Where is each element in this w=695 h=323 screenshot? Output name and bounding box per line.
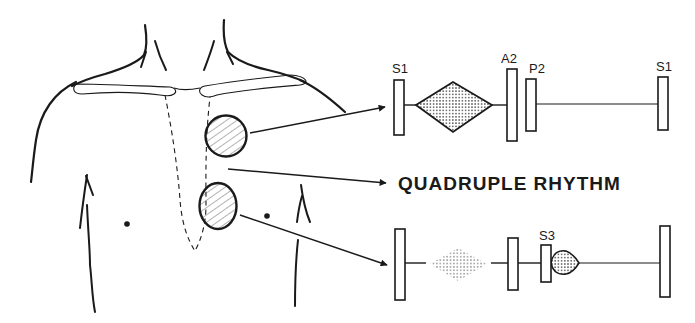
bottom-s3-bar [541, 245, 551, 282]
top-p2-bar [526, 79, 536, 131]
bottom-s1-end-bar [660, 226, 670, 297]
neck-left-line [72, 25, 146, 86]
label-p2: P2 [529, 61, 545, 76]
neck-inner-right [204, 41, 214, 70]
left-shoulder [31, 82, 76, 182]
bottom-s1-start-bar [395, 229, 405, 300]
bottom-s2-bar [508, 238, 518, 290]
label-s1-start: S1 [392, 61, 408, 76]
right-nipple [264, 213, 270, 219]
arrow-lower-to-bottom-trace [240, 215, 387, 265]
diagram-canvas: S1 A2 P2 S1 QUADRUPLE RHYTHM S3 [0, 0, 695, 323]
label-s1-end: S1 [656, 59, 672, 74]
right-shoulder [300, 80, 345, 112]
sternum-outline [165, 95, 210, 251]
clavicles [74, 75, 306, 97]
neck-right-line [224, 20, 305, 82]
bottom-phonocardiogram: S3 [395, 226, 670, 300]
auscultation-site-upper[interactable] [206, 116, 247, 157]
top-systolic-murmur-diamond [416, 82, 492, 132]
right-flank-upper [301, 185, 310, 222]
top-s1-start-bar [394, 80, 404, 135]
label-s3: S3 [539, 228, 555, 243]
left-flank [87, 205, 95, 312]
arrow-middle-to-title [228, 169, 386, 183]
bottom-faint-murmur-diamond [430, 248, 487, 281]
neck-inner-left [155, 41, 166, 70]
torso-outline [31, 20, 345, 312]
left-clavicle [74, 84, 176, 96]
right-flank [295, 240, 298, 306]
auscultation-site-lower[interactable] [200, 183, 237, 229]
top-s1-end-bar [658, 77, 668, 130]
right-flank-hook [297, 196, 302, 222]
top-phonocardiogram: S1 A2 P2 S1 [392, 51, 672, 141]
diagram-title: QUADRUPLE RHYTHM [398, 173, 621, 194]
left-nipple [124, 221, 130, 227]
sternal-notch [174, 88, 200, 90]
right-clavicle [200, 75, 306, 97]
pointer-arrows [228, 107, 387, 265]
label-a2: A2 [501, 51, 517, 66]
top-a2-bar [507, 69, 517, 141]
bottom-s3-murmur-lens [551, 251, 579, 274]
arrow-upper-to-top-trace [250, 107, 385, 133]
left-flank-arm [80, 175, 87, 228]
